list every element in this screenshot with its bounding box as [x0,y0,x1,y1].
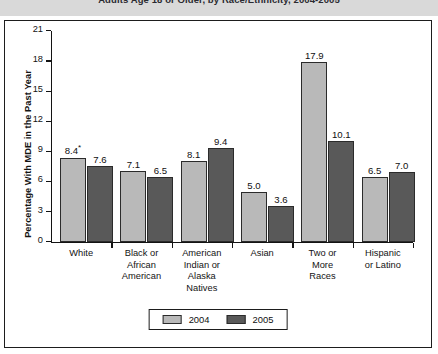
figure-title-band: Adults Age 18 or Older, by Race/Ethnicit… [0,0,438,16]
x-axis-category-label: Asian [232,248,292,260]
category-label-line: More [292,260,352,272]
bar-2005-two-or-more-races[interactable]: 10.1 [328,141,354,242]
y-axis-tick-label: 15 [33,84,43,94]
bar-group: 6.57.0 [353,31,413,242]
y-axis-tick-label: 12 [33,114,43,124]
bar-2005-black-or-african-american[interactable]: 6.5 [147,177,173,242]
category-label-line: Races [292,271,352,283]
bar-2005-white[interactable]: 7.6 [87,166,113,242]
y-axis-tick-label: 3 [38,205,43,215]
bar-value-label: 7.1 [127,159,140,170]
bar-group: 17.910.1 [292,31,352,242]
category-label-line: Two or [292,248,352,260]
y-axis-tick-label: 21 [33,24,43,34]
category-label-line: American [172,248,232,260]
bar-value-label: 7.6 [93,154,106,165]
bar-value-label: 6.5 [368,165,381,176]
y-axis-tick-label: 9 [38,144,43,154]
bar-value-label: 8.4* [65,143,81,156]
legend-swatch-2005 [227,315,246,324]
chart-page: Adults Age 18 or Older, by Race/Ethnicit… [0,0,438,354]
bar-group: 8.4*7.6 [51,31,111,242]
bar-2004-black-or-african-american[interactable]: 7.1 [120,171,146,242]
y-axis-title: Percentage With MDE in the Past Year [23,44,33,264]
x-axis-tick [413,243,414,248]
bar-value-label: 3.6 [274,194,287,205]
bar-value-label: 9.4 [214,136,227,147]
bar-value-label: 6.5 [154,165,167,176]
bar-value-label: 10.1 [332,129,351,140]
legend-label-2005: 2005 [253,314,274,325]
legend-swatch-2004 [163,315,182,324]
figure-frame: Percentage With MDE in the Past Year 036… [4,20,432,348]
x-axis-category-label: White [51,248,111,260]
category-label-line: American [111,271,171,283]
y-axis-tick-label: 0 [38,235,43,245]
bar-2004-asian[interactable]: 5.0 [241,192,267,242]
bar-value-label: 8.1 [187,149,200,160]
category-label-line: or Latino [353,260,413,272]
significance-asterisk: * [78,143,81,152]
category-label-line: Indian or [172,260,232,272]
bar-2005-american-indian-or-alaska-natives[interactable]: 9.4 [208,148,234,242]
bar-2004-white[interactable]: 8.4* [60,158,86,242]
category-label-line: African [111,260,171,272]
category-label-line: Hispanic [353,248,413,260]
bar-value-label: 17.9 [305,50,324,61]
legend-item-2004: 2004 [163,314,210,325]
y-axis-tick-label: 6 [38,174,43,184]
chart-legend: 2004 2005 [149,309,288,330]
category-label-line: Asian [232,248,292,260]
plot-area: 0369121518218.4*7.67.16.58.19.45.03.617.… [51,31,413,243]
bar-group: 5.03.6 [232,31,292,242]
x-axis-category-label: Black orAfricanAmerican [111,248,171,283]
bar-value-label: 5.0 [247,180,260,191]
bar-group: 8.19.4 [172,31,232,242]
bar-2005-hispanic-or-latino[interactable]: 7.0 [389,172,415,242]
x-axis-category-label: Two orMoreRaces [292,248,352,283]
legend-item-2005: 2005 [227,314,274,325]
figure-title: Adults Age 18 or Older, by Race/Ethnicit… [0,0,438,5]
bar-value-label: 7.0 [395,160,408,171]
bar-2004-hispanic-or-latino[interactable]: 6.5 [362,177,388,242]
bar-group: 7.16.5 [111,31,171,242]
bar-2004-two-or-more-races[interactable]: 17.9 [301,62,327,242]
legend-label-2004: 2004 [189,314,210,325]
bar-2005-asian[interactable]: 3.6 [268,206,294,242]
category-label-line: Alaska [172,271,232,283]
y-axis-tick-label: 18 [33,54,43,64]
category-label-line: White [51,248,111,260]
x-axis-category-label: AmericanIndian orAlaskaNatives [172,248,232,294]
bar-2004-american-indian-or-alaska-natives[interactable]: 8.1 [181,161,207,242]
category-label-line: Black or [111,248,171,260]
x-axis-category-label: Hispanicor Latino [353,248,413,271]
category-label-line: Natives [172,283,232,295]
